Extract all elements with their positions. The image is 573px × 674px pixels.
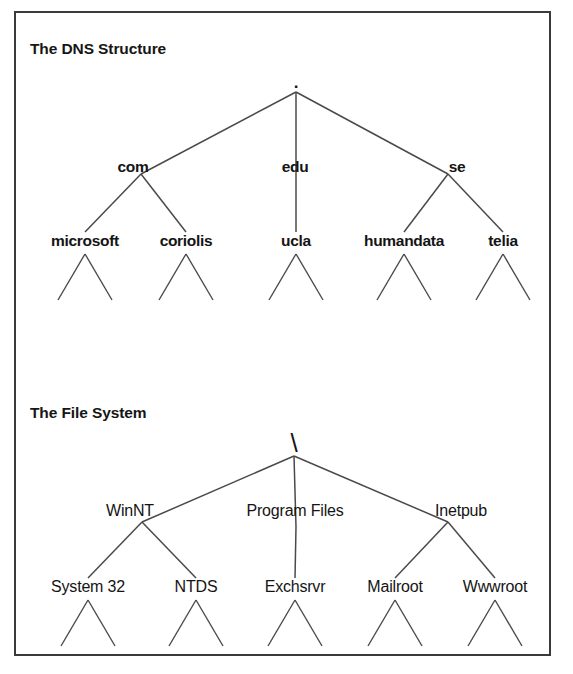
leaf-edge-filesystem-2-right xyxy=(295,600,322,646)
figure-root: The DNS Structure.comedusemicrosoftcorio… xyxy=(0,0,573,674)
tree-filesystem: The File System\WinNTProgram FilesInetpu… xyxy=(30,404,528,646)
leaf-edge-filesystem-3-right xyxy=(395,600,422,646)
leaf-edge-filesystem-4-right xyxy=(495,600,522,646)
edge-root-to-dns-0 xyxy=(141,92,296,174)
edge-dns-branch-0 xyxy=(85,174,141,232)
section-title-dns: The DNS Structure xyxy=(30,40,167,57)
leaf-edge-filesystem-0-left xyxy=(61,600,88,646)
node-root-dns: . xyxy=(294,73,299,92)
leaf-edge-dns-0-left xyxy=(58,254,85,300)
node-label-dns-l3-4: telia xyxy=(488,232,518,249)
leaf-edge-dns-0-right xyxy=(85,254,112,300)
node-label-dns-l3-1: coriolis xyxy=(160,232,213,249)
node-root-filesystem: \ xyxy=(290,428,298,458)
node-label-filesystem-l2-0: WinNT xyxy=(106,502,154,519)
node-label-filesystem-l3-0: System 32 xyxy=(51,578,125,595)
tree-diagrams-svg: The DNS Structure.comedusemicrosoftcorio… xyxy=(0,0,573,674)
leaf-edge-dns-4-right xyxy=(503,254,530,300)
leaf-edge-dns-3-left xyxy=(377,254,404,300)
node-label-dns-l3-2: ucla xyxy=(281,232,311,249)
node-label-filesystem-l2-1: Program Files xyxy=(247,502,344,519)
edge-filesystem-branch-0 xyxy=(88,522,142,578)
leaf-edge-filesystem-1-left xyxy=(169,600,196,646)
leaf-edge-filesystem-2-left xyxy=(268,600,295,646)
node-label-filesystem-l3-2: Exchsrvr xyxy=(265,578,326,595)
leaf-edge-filesystem-0-right xyxy=(88,600,115,646)
node-label-dns-l2-2: se xyxy=(449,158,466,175)
leaf-edge-dns-1-left xyxy=(159,254,186,300)
edge-filesystem-branch-3 xyxy=(395,522,448,578)
section-title-filesystem: The File System xyxy=(30,404,147,421)
edge-root-to-dns-2 xyxy=(296,92,448,174)
node-label-dns-l2-1: edu xyxy=(282,158,309,175)
node-label-dns-l3-0: microsoft xyxy=(51,232,119,249)
node-label-filesystem-l3-3: Mailroot xyxy=(367,578,423,595)
node-label-filesystem-l2-2: Inetpub xyxy=(435,502,487,519)
edge-filesystem-branch-2 xyxy=(295,527,296,578)
node-label-filesystem-l3-1: NTDS xyxy=(175,578,218,595)
leaf-edge-filesystem-3-left xyxy=(368,600,395,646)
edge-dns-branch-4 xyxy=(448,174,503,232)
node-label-dns-l3-3: humandata xyxy=(364,232,445,249)
leaf-edge-dns-1-right xyxy=(186,254,213,300)
edge-filesystem-branch-4 xyxy=(448,522,495,578)
leaf-edge-filesystem-4-left xyxy=(468,600,495,646)
node-label-filesystem-l3-4: Wwwroot xyxy=(463,578,528,595)
edge-filesystem-branch-1 xyxy=(142,522,196,578)
leaf-edge-dns-3-right xyxy=(404,254,431,300)
tree-dns: The DNS Structure.comedusemicrosoftcorio… xyxy=(30,40,530,300)
leaf-edge-filesystem-1-right xyxy=(196,600,223,646)
leaf-edge-dns-4-left xyxy=(476,254,503,300)
edge-dns-branch-3 xyxy=(404,174,448,232)
leaf-edge-dns-2-left xyxy=(269,254,296,300)
node-label-dns-l2-0: com xyxy=(118,158,149,175)
leaf-edge-dns-2-right xyxy=(296,254,323,300)
edge-dns-branch-1 xyxy=(141,174,186,232)
